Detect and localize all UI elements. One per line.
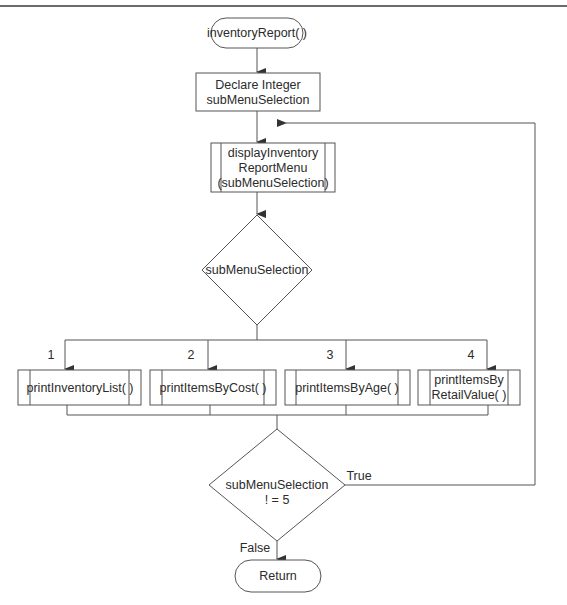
module-label-2: printItemsByCost( ) bbox=[160, 381, 267, 396]
case-label-3: 3 bbox=[327, 348, 334, 363]
module-label-4-line2: RetailValue( ) bbox=[432, 388, 507, 403]
false-label: False bbox=[240, 541, 271, 556]
display-menu-line2: ReportMenu bbox=[239, 161, 308, 176]
module-label-3: printItemsByAge( ) bbox=[295, 381, 399, 396]
declare-line1: Declare Integer bbox=[215, 78, 300, 93]
case-label-4: 4 bbox=[468, 348, 475, 363]
declare-line2: subMenuSelection bbox=[207, 93, 310, 108]
start-label: inventoryReport( ) bbox=[207, 26, 307, 41]
true-label: True bbox=[346, 469, 371, 484]
selection-decision-label: subMenuSelection bbox=[206, 263, 309, 278]
display-menu-line3: (subMenuSelection) bbox=[217, 176, 328, 191]
case-label-2: 2 bbox=[188, 348, 195, 363]
case-label-1: 1 bbox=[48, 348, 55, 363]
module-label-1: printInventoryList( ) bbox=[27, 381, 134, 396]
module-label-4-line1: printItemsBy bbox=[434, 373, 503, 388]
loop-decision-line1: subMenuSelection bbox=[226, 478, 329, 493]
display-menu-line1: displayInventory bbox=[228, 146, 318, 161]
end-label: Return bbox=[259, 569, 297, 584]
loop-decision-line2: ! = 5 bbox=[265, 493, 290, 508]
